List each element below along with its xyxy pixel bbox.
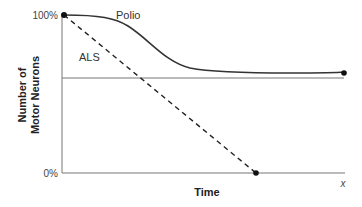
- y-axis-title-line2: Motor Neurons: [29, 56, 41, 134]
- y-tick-0: 0%: [44, 168, 59, 179]
- y-tick-100: 100%: [32, 10, 58, 21]
- polio-label: Polio: [116, 9, 140, 21]
- polio-end-point: [341, 70, 347, 76]
- polio-curve: [64, 15, 344, 73]
- start-point: [61, 12, 67, 18]
- chart: 100% 0% Polio ALS Number of Motor Neuron…: [0, 0, 362, 207]
- x-axis-title: Time: [194, 186, 219, 198]
- x-end-label: x: [340, 178, 347, 189]
- y-axis-title: Number of Motor Neurons: [16, 56, 41, 134]
- als-label: ALS: [79, 51, 100, 63]
- als-end-point: [253, 170, 259, 176]
- y-axis-title-line1: Number of: [16, 67, 28, 122]
- als-line: [64, 15, 256, 173]
